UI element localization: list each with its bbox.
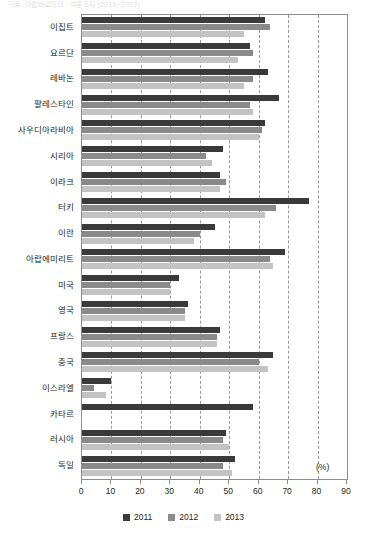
bar-2012 <box>82 50 253 56</box>
bar-2011 <box>82 275 179 281</box>
category-label: 이란 <box>58 228 74 238</box>
bar-2012 <box>82 179 226 185</box>
legend-label: 2012 <box>179 512 198 522</box>
bar-group <box>82 247 347 273</box>
category-label: 미국 <box>58 280 74 290</box>
bar-2013 <box>82 315 185 321</box>
bar-2011 <box>82 95 279 101</box>
bar-2011 <box>82 301 188 307</box>
legend-label: 2011 <box>134 512 152 522</box>
axis-tick-label: 70 <box>282 486 291 496</box>
axis-tick-label: 10 <box>106 486 115 496</box>
legend-item-2012[interactable]: 2012 <box>168 512 198 522</box>
category-axis-labels: 이집트요르단레바논팔레스타인사우디아라비아시리아이라크터키이란아랍에미리트미국영… <box>0 14 78 480</box>
bar-2011 <box>82 198 309 204</box>
category-label: 시리아 <box>50 151 74 161</box>
bar-2012 <box>82 256 270 262</box>
bar-group <box>82 195 347 221</box>
bar-2012 <box>82 385 94 391</box>
bar-2011 <box>82 69 268 75</box>
bar-group <box>82 324 347 350</box>
bar-group <box>82 92 347 118</box>
bar-2013 <box>82 57 238 63</box>
axis-tick <box>199 480 200 484</box>
bar-2013 <box>82 444 229 450</box>
category-label: 독일 <box>58 460 74 470</box>
bar-2013 <box>82 341 217 347</box>
category-label: 이라크 <box>50 177 74 187</box>
bar-group <box>82 67 347 93</box>
legend-item-2013[interactable]: 2013 <box>214 512 244 522</box>
bar-group <box>82 144 347 170</box>
faint-source-note: 자료: 아랍바로미터 · 여론조사 (2011~2013) <box>8 0 308 9</box>
category-label: 터키 <box>58 202 74 212</box>
bar-2012 <box>82 205 276 211</box>
axis-tick <box>169 480 170 484</box>
axis-tick <box>81 480 82 484</box>
axis-tick <box>258 480 259 484</box>
category-label: 중국 <box>58 357 74 367</box>
bar-group <box>82 402 347 428</box>
bar-2011 <box>82 378 111 384</box>
plot-area <box>81 14 348 480</box>
category-label: 팔레스타인 <box>34 99 74 109</box>
axis-tick <box>110 480 111 484</box>
legend-swatch-icon <box>214 514 221 521</box>
category-label: 이스라엘 <box>42 383 74 393</box>
axis-tick <box>140 480 141 484</box>
bar-group <box>82 453 347 479</box>
bar-series-container <box>82 15 347 479</box>
bar-2013 <box>82 186 220 192</box>
bar-group <box>82 273 347 299</box>
faint-source-note-text: 자료: 아랍바로미터 · 여론조사 (2011~2013) <box>8 0 308 9</box>
category-label: 레바논 <box>50 73 74 83</box>
axis-tick-label: 60 <box>253 486 262 496</box>
bar-2013 <box>82 31 244 37</box>
axis-tick-label: 40 <box>194 486 203 496</box>
axis-tick-label: 20 <box>135 486 144 496</box>
bar-2013 <box>82 470 232 476</box>
unit-label: (%) <box>316 462 329 472</box>
value-axis: 0102030405060708090 <box>81 480 348 510</box>
category-label: 프랑스 <box>50 331 74 341</box>
bar-group <box>82 41 347 67</box>
bar-group <box>82 376 347 402</box>
bar-2013 <box>82 289 170 295</box>
legend-item-2011[interactable]: 2011 <box>123 512 152 522</box>
axis-tick <box>287 480 288 484</box>
bar-2012 <box>82 127 262 133</box>
category-label: 영국 <box>58 305 74 315</box>
bar-2013 <box>82 212 265 218</box>
bar-2013 <box>82 263 273 269</box>
axis-tick-label: 30 <box>165 486 174 496</box>
bar-2012 <box>82 153 206 159</box>
bar-chart: 자료: 아랍바로미터 · 여론조사 (2011~2013) 이집트요르단레바논팔… <box>0 0 367 540</box>
bar-2011 <box>82 224 215 230</box>
bar-group <box>82 350 347 376</box>
bar-2011 <box>82 146 223 152</box>
bar-group <box>82 221 347 247</box>
axis-tick <box>346 480 347 484</box>
bar-2012 <box>82 102 250 108</box>
bar-group <box>82 118 347 144</box>
bar-2013 <box>82 83 244 89</box>
bar-2012 <box>82 359 259 365</box>
category-label: 러시아 <box>50 434 74 444</box>
category-label: 아랍에미리트 <box>26 254 74 264</box>
legend-swatch-icon <box>168 514 175 521</box>
bar-2012 <box>82 282 170 288</box>
bar-2011 <box>82 327 220 333</box>
bar-2011 <box>82 352 273 358</box>
axis-tick-label: 90 <box>341 486 350 496</box>
bar-group <box>82 299 347 325</box>
bar-2011 <box>82 404 253 410</box>
bar-2012 <box>82 463 223 469</box>
bar-2012 <box>82 76 253 82</box>
bar-2011 <box>82 120 265 126</box>
axis-tick <box>228 480 229 484</box>
legend-swatch-icon <box>123 514 130 521</box>
chart-legend: 201120122013 <box>0 512 367 522</box>
bar-2012 <box>82 334 217 340</box>
bar-2012 <box>82 231 200 237</box>
bar-group <box>82 170 347 196</box>
